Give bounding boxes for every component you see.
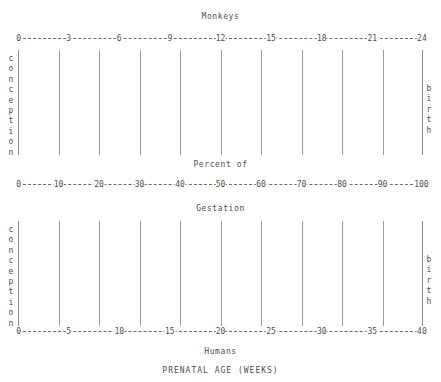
gridline	[302, 50, 303, 155]
axis-tick-label: 24	[417, 33, 428, 44]
marker-letter: o	[6, 308, 16, 318]
axis-tick-label: 40	[417, 326, 428, 337]
axis-tick-label: 100	[414, 179, 429, 190]
humans-panel: conception birth	[18, 221, 423, 326]
conception-marker-bottom: conception	[6, 225, 16, 329]
marker-letter: p	[6, 277, 16, 287]
marker-letter: i	[424, 265, 434, 275]
monkeys-title: Monkeys	[0, 12, 441, 21]
marker-letter: r	[424, 276, 434, 286]
axis-tick-label: 70	[296, 179, 307, 190]
figure-caption: PRENATAL AGE (WEEKS)	[0, 366, 441, 375]
axis-tick-label: 30	[316, 326, 327, 337]
gridline-birth-edge	[422, 221, 423, 326]
axis-tick-label: 15	[266, 33, 277, 44]
marker-letter: o	[6, 235, 16, 245]
marker-letter: n	[6, 148, 16, 158]
birth-marker-bottom: birth	[424, 255, 434, 307]
marker-letter: b	[424, 84, 434, 94]
marker-letter: i	[6, 127, 16, 137]
gridline	[221, 221, 222, 326]
gridline	[59, 221, 60, 326]
marker-letter: c	[6, 256, 16, 266]
axis-tick-label: 60	[256, 179, 267, 190]
gridline	[261, 50, 262, 155]
marker-letter: c	[6, 85, 16, 95]
gridline	[99, 50, 100, 155]
gridline	[99, 221, 100, 326]
percent-of-title: Percent of	[0, 160, 441, 169]
humans-title: Humans	[0, 347, 441, 356]
axis-tick-label: 0	[16, 326, 22, 337]
gestation-title: Gestation	[0, 204, 441, 213]
gridline	[221, 50, 222, 155]
gridline	[261, 221, 262, 326]
marker-letter: h	[424, 297, 434, 307]
axis-tick-label: 15	[165, 326, 176, 337]
axis-tick-label: 6	[116, 33, 122, 44]
marker-letter: p	[6, 106, 16, 116]
marker-letter: c	[6, 225, 16, 235]
axis-tick-label: 80	[337, 179, 348, 190]
gridline	[342, 50, 343, 155]
axis-tick-label: 20	[215, 326, 226, 337]
conception-marker-top: conception	[6, 54, 16, 158]
gridline-conception-edge	[18, 221, 19, 326]
gridline	[140, 50, 141, 155]
gridline	[59, 50, 60, 155]
prenatal-age-comparison-figure: Monkeys 03691215182124 conception birth …	[0, 0, 441, 382]
gridline	[342, 221, 343, 326]
gridline-birth-edge	[422, 50, 423, 155]
gridline	[383, 221, 384, 326]
marker-letter: n	[6, 246, 16, 256]
axis-tick-label: 12	[215, 33, 226, 44]
marker-letter: n	[6, 75, 16, 85]
marker-letter: o	[6, 64, 16, 74]
axis-tick-label: 10	[53, 179, 64, 190]
axis-tick-label: 25	[266, 326, 277, 337]
gridline	[180, 221, 181, 326]
axis-tick-label: 10	[114, 326, 125, 337]
axis-tick-label: 0	[16, 33, 22, 44]
marker-letter: c	[6, 54, 16, 64]
axis-tick-label: 30	[134, 179, 145, 190]
axis-tick-label: 20	[94, 179, 105, 190]
marker-letter: b	[424, 255, 434, 265]
marker-letter: i	[6, 298, 16, 308]
marker-letter: t	[6, 287, 16, 297]
gridline-conception-edge	[18, 50, 19, 155]
marker-letter: e	[6, 96, 16, 106]
monkeys-panel: conception birth	[18, 50, 423, 155]
gridline	[383, 50, 384, 155]
axis-tick-label: 35	[367, 326, 378, 337]
marker-letter: e	[6, 267, 16, 277]
percent-gestation-axis: 0102030405060708090100	[18, 179, 423, 190]
marker-letter: t	[424, 115, 434, 125]
axis-tick-label: 9	[167, 33, 173, 44]
axis-tick-label: 21	[367, 33, 378, 44]
humans-axis: 0510152025303540	[18, 326, 423, 337]
axis-tick-label: 3	[66, 33, 72, 44]
gridline	[180, 50, 181, 155]
axis-tick-label: 90	[377, 179, 388, 190]
birth-marker-top: birth	[424, 84, 434, 136]
axis-tick-label: 0	[16, 179, 22, 190]
axis-tick-label: 18	[316, 33, 327, 44]
marker-letter: t	[424, 286, 434, 296]
marker-letter: t	[6, 116, 16, 126]
gridline	[140, 221, 141, 326]
marker-letter: n	[6, 319, 16, 329]
axis-tick-label: 5	[66, 326, 72, 337]
gridline	[302, 221, 303, 326]
marker-letter: h	[424, 126, 434, 136]
axis-tick-label: 40	[175, 179, 186, 190]
marker-letter: r	[424, 105, 434, 115]
marker-letter: o	[6, 137, 16, 147]
axis-tick-label: 50	[215, 179, 226, 190]
marker-letter: i	[424, 94, 434, 104]
monkeys-axis: 03691215182124	[18, 33, 423, 44]
